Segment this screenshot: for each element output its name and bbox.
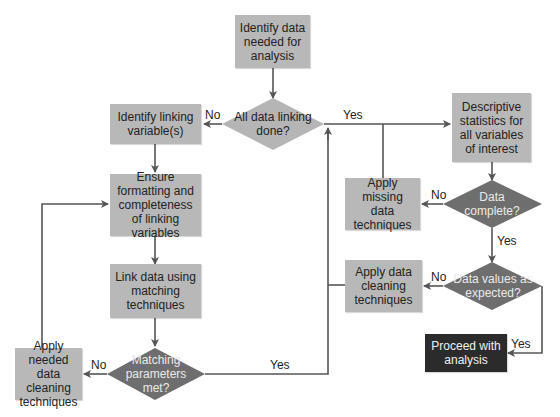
decision-label-values-expected: Data values as expected?: [452, 272, 534, 300]
node-apply-missing: Apply missing data techniques: [345, 178, 420, 230]
node-link-data: Link data using matching techniques: [110, 264, 201, 318]
node-descriptive-stats: Descriptive statistics for all variables…: [452, 93, 531, 162]
node-label: Identify data needed for analysis: [239, 21, 306, 63]
decision-label-all-linking: All data linking done?: [232, 108, 314, 140]
node-apply-needed-cleaning: Apply needed data cleaning techniques: [15, 348, 82, 400]
edge-label-linking-yes: Yes: [343, 108, 363, 122]
edge-label-matching-yes: Yes: [270, 358, 290, 372]
node-label: Apply missing data techniques: [349, 176, 416, 232]
node-label: Apply data cleaning techniques: [349, 265, 418, 307]
node-label: Ensure formatting and completeness of li…: [114, 170, 197, 240]
decision-label-matching: Matching parameters met?: [122, 352, 190, 396]
node-label: Apply needed data cleaning techniques: [19, 339, 78, 409]
node-identify-data: Identify data needed for analysis: [235, 15, 310, 68]
edge-label-matching-no: No: [91, 358, 106, 372]
edge-label-complete-no: No: [431, 188, 446, 202]
edge-label-linking-no: No: [205, 108, 220, 122]
node-ensure-formatting: Ensure formatting and completeness of li…: [110, 174, 201, 236]
node-apply-cleaning: Apply data cleaning techniques: [345, 260, 422, 312]
edge-label-expected-no: No: [431, 270, 446, 284]
node-proceed-analysis: Proceed with analysis: [425, 334, 507, 372]
node-label: Link data using matching techniques: [114, 270, 197, 312]
edge-label-complete-yes: Yes: [497, 234, 517, 248]
node-identify-linking: Identify linking variable(s): [110, 104, 201, 144]
edge-label-expected-yes: Yes: [511, 337, 531, 351]
decision-label-data-complete: Data complete?: [455, 190, 529, 218]
node-label: Descriptive statistics for all variables…: [456, 100, 527, 156]
node-label: Identify linking variable(s): [114, 110, 197, 138]
node-label: Proceed with analysis: [429, 339, 503, 367]
